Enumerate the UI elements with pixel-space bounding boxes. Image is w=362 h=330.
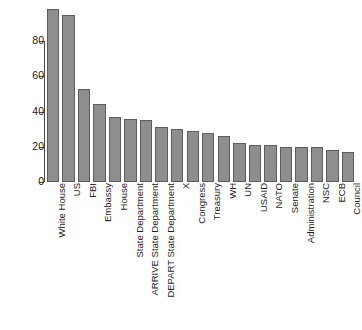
y-tick-label: 0 [10, 176, 44, 187]
bar [326, 150, 338, 182]
y-tick-20: 20 [0, 147, 44, 148]
bar [109, 117, 121, 182]
x-axis-label: White House [57, 183, 67, 237]
x-axis-label: Treasury [212, 183, 222, 220]
bar [264, 145, 276, 182]
y-tick-label: 40 [10, 106, 44, 117]
x-axis-label: USAID [259, 183, 269, 212]
x-axis-label: State Department [135, 183, 145, 257]
y-tick-80: 80 [0, 41, 44, 42]
x-axis-label: WH [228, 183, 238, 199]
bar [218, 136, 230, 182]
plot-area [45, 0, 356, 182]
x-axis-label: DEPART State Department [166, 183, 176, 298]
x-axis-label: House [119, 183, 129, 210]
bar [280, 147, 292, 182]
y-tick-label: 20 [10, 141, 44, 152]
x-axis-label: X [181, 183, 191, 189]
x-axis-label: NATO [274, 183, 284, 209]
bar [155, 127, 167, 182]
bar [93, 104, 105, 182]
bar [295, 147, 307, 182]
bar [124, 119, 136, 182]
x-axis-label: NSC [321, 183, 331, 203]
bar [311, 147, 323, 182]
y-tick-0: 0 [0, 182, 44, 183]
x-axis-label: ARRIVE State Department [150, 183, 160, 295]
bar [140, 120, 152, 182]
y-tick-label: 80 [10, 35, 44, 46]
bar [233, 143, 245, 182]
x-axis-label: UN [243, 183, 253, 197]
bar [202, 133, 214, 182]
bar [47, 9, 59, 182]
bar [78, 89, 90, 182]
x-axis-label: ECB [337, 183, 347, 203]
y-tick-60: 60 [0, 76, 44, 77]
x-axis-labels: White HouseUSFBIEmbassyHouseState Depart… [45, 183, 356, 303]
x-axis-label: Congress [197, 183, 207, 224]
bar [187, 131, 199, 182]
bar [342, 152, 354, 182]
y-tick-label: 60 [10, 70, 44, 81]
bar [171, 129, 183, 182]
y-tick-40: 40 [0, 112, 44, 113]
x-axis-label: US [72, 183, 82, 196]
bar [62, 15, 74, 182]
x-axis-label: Administration [306, 183, 316, 243]
bar [249, 145, 261, 182]
x-axis-label: Embassy [103, 183, 113, 222]
x-axis-label: Senate [290, 183, 300, 213]
x-axis-label: Council [352, 183, 362, 215]
x-axis-label: FBI [88, 183, 98, 198]
